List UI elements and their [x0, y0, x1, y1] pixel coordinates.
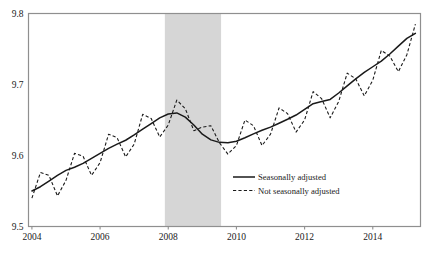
plot-frame	[29, 14, 421, 227]
x-axis-tick-label: 2014	[363, 232, 382, 242]
x-axis-tick-label: 2010	[227, 232, 246, 242]
recession-band-group	[165, 14, 221, 227]
y-axis-tick-label: 9.8	[12, 9, 24, 19]
chart-legend: Seasonally adjustedNot seasonally adjust…	[233, 172, 340, 196]
series-not-seasonally-adjusted	[32, 24, 415, 198]
x-axis-tick-label: 2006	[91, 232, 110, 242]
y-axis-tick-label: 9.5	[12, 222, 24, 232]
axes-frame	[29, 14, 421, 227]
x-axis-tick-label: 2012	[295, 232, 314, 242]
series-seasonally-adjusted	[32, 33, 415, 191]
figure: 9.59.69.79.8 200420062008201020122014 Se…	[0, 0, 431, 260]
x-axis-tick-label: 2004	[22, 232, 41, 242]
recession-shading	[165, 14, 221, 227]
x-axis-tick-label: 2008	[159, 232, 178, 242]
y-axis-tick-label: 9.7	[12, 80, 24, 90]
legend-label-2: Not seasonally adjusted	[258, 186, 340, 196]
chart-canvas: 9.59.69.79.8 200420062008201020122014 Se…	[0, 0, 431, 260]
series-layer	[32, 24, 415, 198]
legend-label-1: Seasonally adjusted	[258, 172, 327, 182]
y-axis-tick-label: 9.6	[12, 151, 24, 161]
x-axis-ticks: 200420062008201020122014	[22, 227, 382, 242]
y-axis-ticks: 9.59.69.79.8	[12, 9, 24, 232]
